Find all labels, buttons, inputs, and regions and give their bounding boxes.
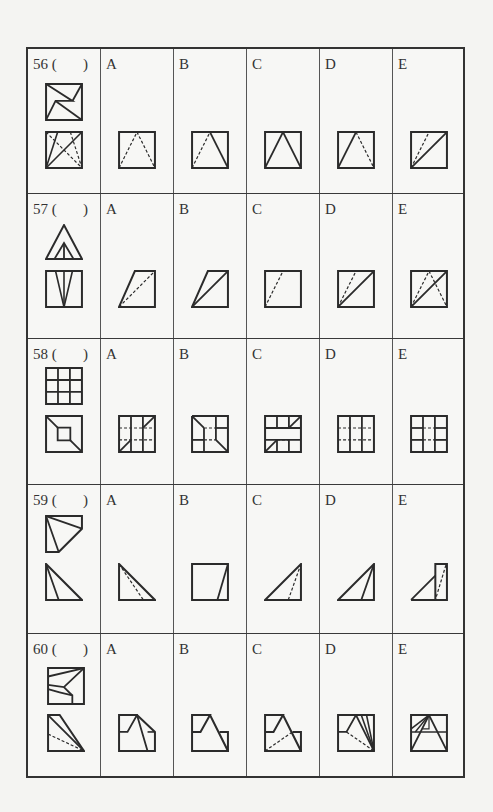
option-letter: B (179, 56, 189, 72)
option-letter: D (325, 492, 336, 508)
option-cell-d[interactable]: D (320, 485, 393, 633)
option-cell-c[interactable]: C (247, 339, 320, 484)
option-cell-b[interactable]: B (174, 49, 247, 193)
question-table: 56 ( ) A B (26, 47, 465, 778)
option-letter: C (252, 201, 262, 217)
question-cell: 60 ( ) (28, 634, 101, 776)
figure-unfolded (45, 515, 83, 553)
option-letter: D (325, 56, 336, 72)
figure-folded (45, 415, 83, 453)
option-letter: D (325, 201, 336, 217)
option-cell-b[interactable]: B (174, 194, 247, 338)
option-figure (118, 714, 156, 752)
option-figure (264, 131, 302, 169)
figure-folded (45, 270, 83, 308)
option-letter: B (179, 346, 189, 362)
option-figure (118, 131, 156, 169)
option-cell-e[interactable]: E (393, 485, 463, 633)
option-figure (118, 563, 156, 601)
question-cell: 57 ( ) (28, 194, 101, 338)
option-figure (410, 270, 448, 308)
option-figure (191, 415, 229, 453)
question-cell: 58 ( ) (28, 339, 101, 484)
option-figure (410, 563, 448, 601)
option-letter: E (398, 201, 407, 217)
figure-folded (45, 131, 83, 169)
question-row-60: 60 ( ) A B (28, 634, 463, 776)
option-cell-e[interactable]: E (393, 194, 463, 338)
option-letter: B (179, 641, 189, 657)
option-cell-a[interactable]: A (101, 485, 174, 633)
option-figure (264, 714, 302, 752)
option-figure (410, 415, 448, 453)
question-cell: 56 ( ) (28, 49, 101, 193)
figure-unfolded (47, 667, 85, 705)
question-row-58: 58 ( ) A (28, 339, 463, 485)
figure-unfolded (45, 367, 83, 405)
question-row-57: 57 ( ) A B (28, 194, 463, 339)
option-figure (337, 563, 375, 601)
option-letter: C (252, 641, 262, 657)
question-number: 57 ( ) (33, 201, 88, 217)
figure-unfolded (45, 83, 83, 121)
option-cell-e[interactable]: E (393, 339, 463, 484)
option-cell-d[interactable]: D (320, 634, 393, 776)
option-figure (410, 714, 448, 752)
question-number: 58 ( ) (33, 346, 88, 362)
option-figure (337, 131, 375, 169)
option-figure (410, 131, 448, 169)
option-cell-c[interactable]: C (247, 49, 320, 193)
option-letter: A (106, 641, 117, 657)
option-figure (264, 563, 302, 601)
option-letter: C (252, 346, 262, 362)
option-figure (191, 563, 229, 601)
option-letter: A (106, 346, 117, 362)
question-number: 56 ( ) (33, 56, 88, 72)
option-figure (191, 714, 229, 752)
option-letter: D (325, 641, 336, 657)
figure-folded (45, 563, 83, 601)
option-figure (337, 714, 375, 752)
option-letter: C (252, 492, 262, 508)
option-figure (191, 270, 229, 308)
option-letter: A (106, 492, 117, 508)
option-figure (264, 415, 302, 453)
figure-unfolded (45, 224, 83, 260)
option-figure (337, 270, 375, 308)
option-letter: E (398, 346, 407, 362)
option-figure (337, 415, 375, 453)
option-cell-c[interactable]: C (247, 485, 320, 633)
option-figure (264, 270, 302, 308)
question-number: 59 ( ) (33, 492, 88, 508)
option-cell-e[interactable]: E (393, 634, 463, 776)
question-row-59: 59 ( ) A B (28, 485, 463, 634)
option-cell-a[interactable]: A (101, 49, 174, 193)
question-cell: 59 ( ) (28, 485, 101, 633)
option-cell-c[interactable]: C (247, 194, 320, 338)
option-cell-b[interactable]: B (174, 634, 247, 776)
option-cell-d[interactable]: D (320, 49, 393, 193)
option-letter: D (325, 346, 336, 362)
option-cell-b[interactable]: B (174, 339, 247, 484)
option-figure (118, 415, 156, 453)
figure-folded (47, 714, 85, 752)
option-letter: A (106, 56, 117, 72)
option-letter: B (179, 492, 189, 508)
option-letter: B (179, 201, 189, 217)
option-cell-b[interactable]: B (174, 485, 247, 633)
option-figure (118, 270, 156, 308)
option-letter: C (252, 56, 262, 72)
question-row-56: 56 ( ) A B (28, 49, 463, 194)
option-letter: E (398, 641, 407, 657)
question-number: 60 ( ) (33, 641, 88, 657)
option-cell-a[interactable]: A (101, 194, 174, 338)
option-letter: A (106, 201, 117, 217)
option-letter: E (398, 492, 407, 508)
option-cell-a[interactable]: A (101, 339, 174, 484)
option-cell-d[interactable]: D (320, 194, 393, 338)
option-cell-d[interactable]: D (320, 339, 393, 484)
option-cell-e[interactable]: E (393, 49, 463, 193)
option-cell-a[interactable]: A (101, 634, 174, 776)
option-figure (191, 131, 229, 169)
option-cell-c[interactable]: C (247, 634, 320, 776)
